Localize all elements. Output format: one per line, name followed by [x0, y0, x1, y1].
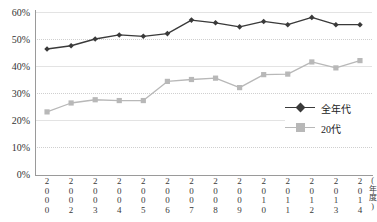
y-axis-tick-label: 30%: [12, 88, 30, 99]
data-point-marker: [285, 72, 290, 77]
data-point-marker: [213, 76, 218, 81]
y-axis-labels: 0%10%20%30%40%50%60%: [0, 0, 33, 222]
x-axis-line: [35, 175, 373, 176]
data-point-marker: [261, 72, 266, 77]
x-axis-tick-label: 2009: [233, 177, 247, 215]
data-point-marker: [213, 20, 219, 26]
data-point-marker: [261, 19, 267, 25]
x-axis-tick-label: 2007: [184, 177, 198, 215]
x-axis-unit-label: (年度): [368, 177, 377, 211]
data-point-marker: [189, 17, 195, 23]
data-point-marker: [165, 31, 171, 37]
x-axis-tick-label: 2008: [209, 177, 223, 215]
data-point-marker: [357, 58, 362, 63]
y-axis-tick-label: 20%: [12, 115, 30, 126]
data-point-marker: [309, 15, 315, 21]
legend-item-all-ages[interactable]: 全年代: [285, 100, 351, 116]
chart-container: 携帯インターネット利用率（単身） 0%10%20%30%40%50%60% 20…: [0, 0, 377, 222]
x-axis-tick-label: 2013: [329, 177, 343, 215]
y-axis-tick-label: 10%: [12, 142, 30, 153]
data-point-marker: [357, 22, 363, 28]
legend-marker-square-icon: [285, 122, 315, 134]
y-axis-tick-label: 60%: [12, 7, 30, 18]
legend-label-twenties: 20代: [315, 121, 341, 136]
legend-label-all-ages: 全年代: [315, 101, 351, 116]
data-point-marker: [93, 97, 98, 102]
series-line: [47, 17, 360, 49]
data-point-marker: [333, 65, 338, 70]
data-point-marker: [237, 85, 242, 90]
y-axis-tick-label: 50%: [12, 34, 30, 45]
legend: 全年代 20代: [285, 98, 373, 142]
x-axis-tick-label: 2005: [136, 177, 150, 215]
y-axis-tick-label: 0%: [17, 169, 30, 180]
data-point-marker: [189, 77, 194, 82]
x-axis-tick-label: 2014: [353, 177, 367, 215]
data-point-marker: [237, 24, 243, 30]
data-point-marker: [333, 22, 339, 28]
data-point-marker: [44, 46, 50, 52]
x-axis-tick-label: 2011: [281, 177, 295, 215]
legend-marker-diamond-icon: [285, 102, 315, 114]
data-point-marker: [69, 100, 74, 105]
data-point-marker: [309, 59, 314, 64]
data-point-marker: [92, 36, 98, 42]
data-point-marker: [285, 22, 291, 28]
x-axis-tick-label: 2004: [112, 177, 126, 215]
x-axis-tick-label: 2002: [64, 177, 78, 215]
data-point-marker: [117, 98, 122, 103]
x-axis-tick-label: 2000: [40, 177, 54, 215]
data-point-marker: [44, 109, 49, 114]
legend-item-twenties[interactable]: 20代: [285, 120, 341, 136]
data-point-marker: [141, 98, 146, 103]
data-point-marker: [116, 32, 122, 38]
plot-area: [35, 12, 372, 174]
x-axis-tick-label: 2010: [257, 177, 271, 215]
data-point-marker: [165, 79, 170, 84]
data-point-marker: [141, 34, 147, 40]
x-axis-tick-label: 2012: [305, 177, 319, 215]
y-axis-tick-label: 40%: [12, 61, 30, 72]
series-lines: [35, 12, 372, 174]
y-axis-line: [35, 10, 36, 176]
x-axis-tick-label: 2006: [160, 177, 174, 215]
x-axis-labels: 2000200220032004200520062007200820092010…: [35, 177, 373, 222]
x-axis-tick-label: 2003: [88, 177, 102, 215]
data-point-marker: [68, 43, 74, 49]
